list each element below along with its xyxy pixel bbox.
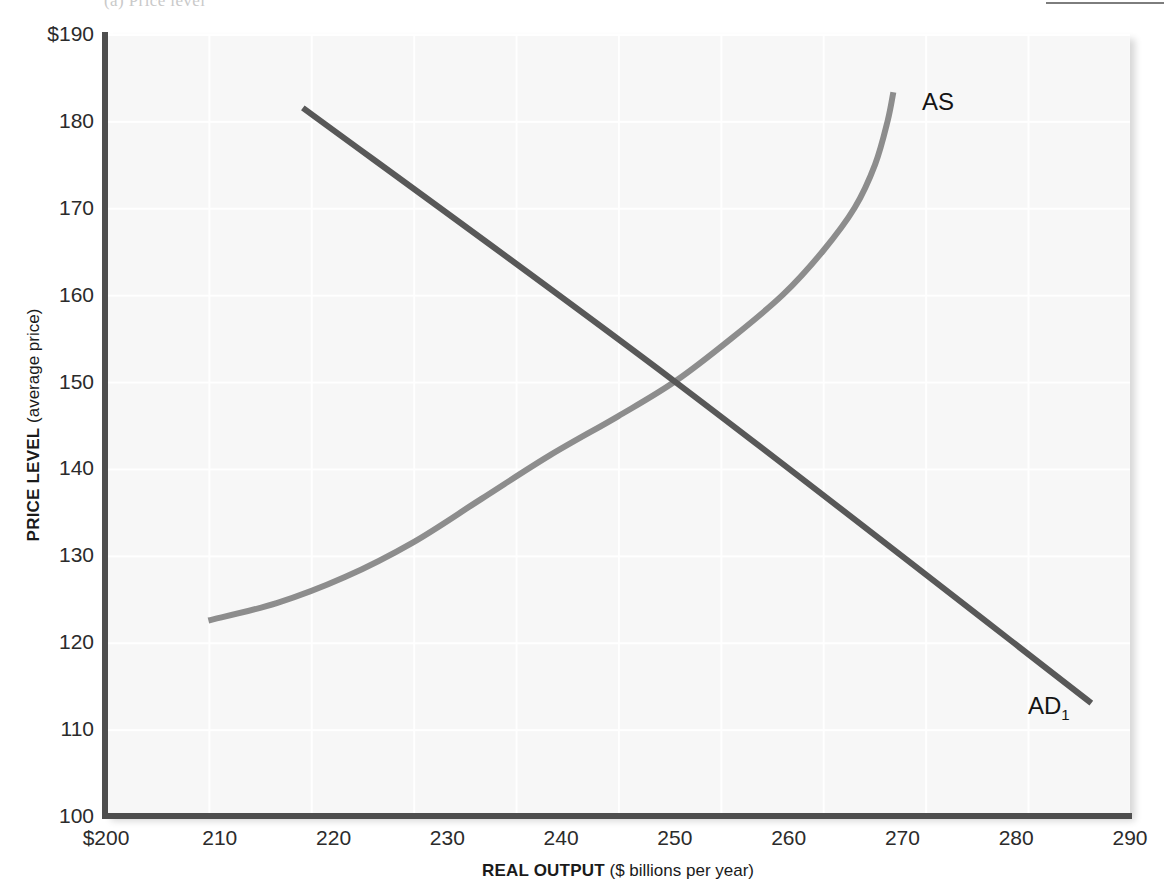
x-axis-tick-label: 270 — [885, 826, 920, 850]
y-axis-title: PRICE LEVEL (average price) — [24, 145, 44, 705]
x-axis-title-bold: REAL OUTPUT — [482, 861, 605, 880]
x-axis-tick-label: 290 — [1112, 826, 1147, 850]
curve-as — [208, 92, 893, 620]
x-axis-tick-label: 280 — [999, 826, 1034, 850]
curve-label-ad-main: AD — [1028, 692, 1061, 719]
y-axis-title-bold: PRICE LEVEL — [24, 428, 43, 542]
y-axis-title-rest: (average price) — [24, 309, 43, 428]
curve-label-as: AS — [922, 88, 954, 116]
x-axis-title: REAL OUTPUT ($ billions per year) — [106, 861, 1130, 881]
x-axis-tick-label: 260 — [771, 826, 806, 850]
chart-figure: $190180170160150140130120110100 AS AD1 P… — [0, 0, 1174, 885]
x-axis-tick-label: 210 — [202, 826, 237, 850]
chart-curves — [0, 0, 1174, 885]
curve-ad1 — [303, 108, 1091, 703]
x-axis-tick-label: 240 — [544, 826, 579, 850]
x-axis-tick-label: 220 — [316, 826, 351, 850]
x-axis-tick-label: $200 — [83, 826, 130, 850]
x-axis-tick-label: 230 — [430, 826, 465, 850]
x-axis-tick-label: 250 — [657, 826, 692, 850]
x-axis-title-rest: ($ billions per year) — [605, 861, 754, 880]
curve-label-ad-subscript: 1 — [1061, 706, 1069, 723]
curve-label-ad1: AD1 — [1028, 692, 1070, 723]
